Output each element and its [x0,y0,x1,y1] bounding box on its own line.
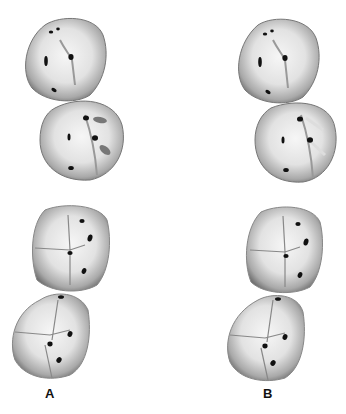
lower-molar-2 [12,294,89,378]
upper-molar-1 [239,19,320,103]
panel-label-a: A [45,386,54,401]
lower-molar-1 [246,207,322,293]
upper-molar-2 [40,101,123,180]
panel-b: B [173,0,346,414]
lower-molar-2 [228,296,305,381]
panel-label-b: B [263,386,272,401]
upper-molar-2 [255,103,336,182]
molar-illustration-b [173,0,346,414]
upper-molar-1 [26,18,107,100]
molar-illustration-a [0,0,173,414]
lower-molar-1 [32,206,109,291]
panel-a: A [0,0,173,414]
